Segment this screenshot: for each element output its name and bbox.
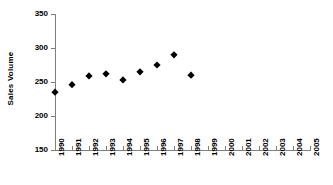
x-tick-label: 2000 xyxy=(228,138,236,156)
x-tick-label: 1994 xyxy=(126,138,134,156)
x-tick-label: 2002 xyxy=(262,138,270,156)
x-axis-tick-labels: 1990199119921993199419951996199719981999… xyxy=(0,0,333,185)
x-tick-label: 2001 xyxy=(245,138,253,156)
x-tick-label: 2004 xyxy=(296,138,304,156)
sales-volume-scatter-chart: Sales Volume 150200250300350 19901991199… xyxy=(0,0,333,185)
x-tick-label: 1998 xyxy=(194,138,202,156)
x-tick-label: 1999 xyxy=(211,138,219,156)
x-tick-label: 1991 xyxy=(75,138,83,156)
x-tick-label: 1997 xyxy=(177,138,185,156)
x-tick-label: 1996 xyxy=(160,138,168,156)
x-tick-label: 1995 xyxy=(143,138,151,156)
x-tick-label: 1992 xyxy=(92,138,100,156)
x-tick-label: 1990 xyxy=(58,138,66,156)
x-tick-label: 2003 xyxy=(279,138,287,156)
x-tick-label: 1993 xyxy=(109,138,117,156)
x-tick-label: 2005 xyxy=(313,138,321,156)
